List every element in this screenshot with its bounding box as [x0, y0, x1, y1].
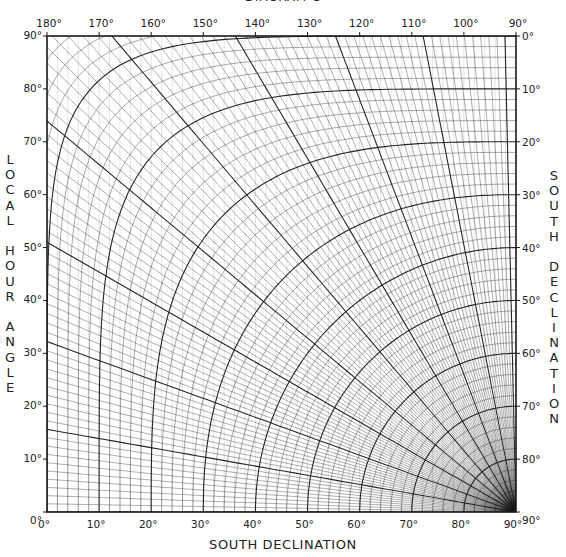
axis-title-letter: E	[3, 380, 17, 395]
axis-title-letter: C	[3, 182, 17, 197]
axis-title-letter: L	[3, 152, 17, 167]
tick-label: 60°	[347, 518, 366, 530]
tick-label: 50°	[23, 241, 42, 253]
axis-title-letter: I	[547, 381, 561, 396]
axis-title-letter	[3, 304, 17, 319]
axis-title-letter: G	[3, 350, 17, 365]
axis-title-letter: O	[3, 167, 17, 182]
tick-label: 90°	[522, 514, 541, 526]
tick-label: 40°	[522, 242, 541, 254]
tick-label: 20°	[139, 518, 158, 530]
axis-title-letter: L	[3, 365, 17, 380]
tick-label: 50°	[522, 294, 541, 306]
tick-label: 10°	[522, 83, 541, 95]
tick-label: 0°	[30, 514, 42, 526]
axis-title-letter: N	[547, 335, 561, 350]
tick-label: 80°	[452, 518, 471, 530]
tick-label: 0°	[522, 30, 534, 42]
axis-title-letter: H	[3, 243, 17, 258]
axis-title-letter: U	[547, 198, 561, 213]
axis-title-letter: L	[3, 213, 17, 228]
axis-title-letter: O	[3, 258, 17, 273]
axis-title-letter: A	[547, 350, 561, 365]
tick-label: 70°	[522, 400, 541, 412]
axis-title-letter: R	[3, 289, 17, 304]
tick-label: 30°	[23, 346, 42, 358]
tick-label: 90°	[504, 518, 523, 530]
axis-title-letter: S	[547, 168, 561, 183]
tick-label: 40°	[243, 518, 262, 530]
axis-title-letter: N	[547, 411, 561, 426]
tick-label: 30°	[191, 518, 210, 530]
tick-label: 140°	[245, 17, 270, 29]
axis-title-letter: L	[547, 305, 561, 320]
axis-title-letter: I	[547, 320, 561, 335]
right-axis-title: SOUTH DECLINATION	[547, 168, 561, 426]
tick-label: 130°	[297, 17, 322, 29]
tick-label: 160°	[141, 17, 166, 29]
axis-title-letter: C	[547, 290, 561, 305]
grid-lines	[0, 0, 516, 512]
tick-label: 10°	[23, 452, 42, 464]
diagram-plot: 180°170°160°150°140°130°120°110°100°90°0…	[0, 0, 566, 557]
bottom-axis-title: SOUTH DECLINATION	[0, 537, 566, 552]
tick-label: 100°	[453, 17, 478, 29]
axis-title-letter: T	[547, 214, 561, 229]
tick-label: 60°	[522, 347, 541, 359]
axis-title-letter: D	[547, 259, 561, 274]
left-axis-title: LOCAL HOUR ANGLE	[3, 152, 17, 395]
axis-title-letter: A	[3, 319, 17, 334]
axis-title-letter	[547, 244, 561, 259]
tick-label: 50°	[295, 518, 314, 530]
axis-title-letter: N	[3, 334, 17, 349]
tick-label: 180°	[36, 17, 61, 29]
axis-title-letter: U	[3, 274, 17, 289]
tick-label: 110°	[401, 17, 426, 29]
tick-label: 90°	[23, 29, 42, 41]
tick-label: 60°	[23, 188, 42, 200]
axis-title-letter	[3, 228, 17, 243]
tick-label: 10°	[87, 518, 106, 530]
tick-label: 170°	[88, 17, 113, 29]
tick-label: 40°	[23, 293, 42, 305]
axis-title-letter: T	[547, 366, 561, 381]
tick-label: 150°	[193, 17, 218, 29]
axis-title-letter: A	[3, 198, 17, 213]
tick-label: 80°	[522, 453, 541, 465]
tick-label: 70°	[399, 518, 418, 530]
axis-title-letter: O	[547, 396, 561, 411]
axis-title-letter: H	[547, 229, 561, 244]
tick-label: 80°	[23, 82, 42, 94]
axis-title-letter: O	[547, 183, 561, 198]
tick-label: 90°	[509, 17, 528, 29]
axis-title-letter: E	[547, 274, 561, 289]
tick-label: 120°	[349, 17, 374, 29]
tick-label: 20°	[23, 399, 42, 411]
tick-label: 20°	[522, 136, 541, 148]
tick-label: 30°	[522, 189, 541, 201]
tick-label: 70°	[23, 135, 42, 147]
